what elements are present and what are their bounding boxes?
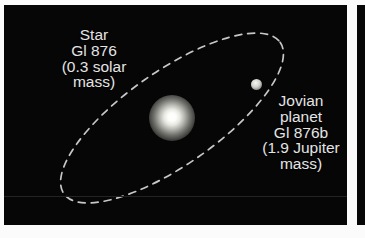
star-label-title: Star (34, 27, 154, 43)
diagram-panel: Star Gl 876 (0.3 solar mass) Jovian plan… (4, 5, 347, 225)
horizontal-rule (4, 196, 347, 197)
star-marker (149, 95, 195, 141)
bezel-bottom (0, 225, 365, 238)
star-label-mass-line1: (0.3 solar (34, 59, 154, 75)
star-label-designation: Gl 876 (34, 43, 154, 59)
planet-label-mass-line2: mass) (240, 156, 347, 172)
adjacent-panel-sliver (357, 5, 365, 225)
planet-label-type-line2: planet (240, 109, 347, 125)
figure-root: Star Gl 876 (0.3 solar mass) Jovian plan… (0, 0, 365, 238)
star-label: Star Gl 876 (0.3 solar mass) (34, 27, 154, 90)
planet-label-mass-line1: (1.9 Jupiter (240, 140, 347, 156)
planet-label-type-line1: Jovian (240, 93, 347, 109)
planet-label-designation: Gl 876b (240, 125, 347, 141)
planet-label: Jovian planet Gl 876b (1.9 Jupiter mass) (240, 93, 347, 172)
planet-marker (251, 79, 262, 90)
panel-gap (347, 0, 357, 238)
star-label-mass-line2: mass) (34, 74, 154, 90)
